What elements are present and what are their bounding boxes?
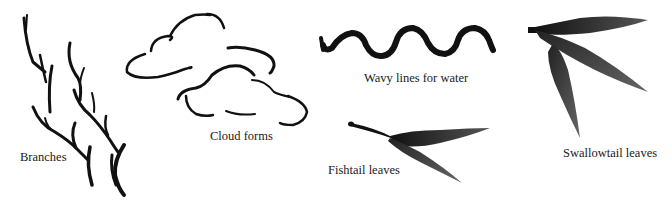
branches-drawing — [24, 15, 124, 195]
label-branches: Branches — [20, 151, 67, 164]
label-fishtail-leaves: Fishtail leaves — [328, 164, 400, 177]
label-swallowtail-leaves: Swallowtail leaves — [563, 147, 657, 160]
cloud-forms-drawing — [127, 14, 307, 125]
brush-stroke-figure: Branches Cloud forms Wavy lines for wate… — [0, 0, 672, 201]
label-wavy-lines: Wavy lines for water — [364, 72, 468, 85]
label-cloud-forms: Cloud forms — [210, 130, 273, 143]
swallowtail-leaves-drawing — [528, 16, 648, 138]
wavy-line-drawing — [321, 28, 493, 56]
